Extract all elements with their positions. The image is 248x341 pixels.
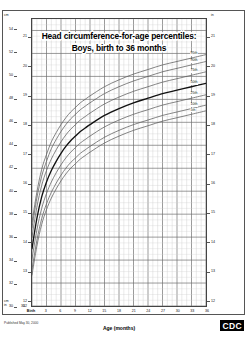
y-tick-mark-in-right — [207, 242, 210, 243]
percentile-label-90th: 90th — [190, 59, 198, 63]
y-tick-in-right-21: 21 — [211, 35, 221, 39]
y-axis-unit-in-bottom: in — [4, 304, 7, 308]
y-tick-mark-in-left — [28, 213, 31, 214]
y-tick-cm-52: 52 — [2, 51, 13, 55]
y-tick-in-left-18: 18 — [18, 123, 27, 127]
y-tick-in-right-18: 18 — [211, 123, 221, 127]
y-tick-in-left-12: 12 — [18, 300, 27, 304]
y-tick-cm-42: 42 — [2, 166, 13, 170]
y-tick-cm-34: 34 — [2, 259, 13, 263]
y-tick-cm-54: 54 — [2, 28, 13, 32]
y-tick-in-left-14: 14 — [18, 241, 27, 245]
y-tick-mark-in-right — [207, 125, 210, 126]
y-tick-mark-cm — [14, 214, 17, 215]
y-tick-mark-cm — [14, 76, 17, 77]
percentile-label-50th: 50th — [190, 81, 198, 85]
y-tick-mark-in-left — [28, 272, 31, 273]
percentile-label-75th: 75th — [190, 69, 198, 73]
y-tick-mark-in-left — [28, 37, 31, 38]
y-tick-mark-cm — [14, 261, 17, 262]
y-tick-in-bottom: 12 — [18, 305, 27, 309]
y-tick-cm-40: 40 — [2, 190, 13, 194]
growth-chart-page: Head circumference-for-age percentiles: … — [0, 0, 248, 341]
y-tick-mark-cm — [14, 52, 17, 53]
y-tick-mark-in-left — [28, 125, 31, 126]
y-tick-mark-in-right — [207, 184, 210, 185]
y-tick-in-right-19: 19 — [211, 94, 221, 98]
y-tick-mark-cm — [14, 191, 17, 192]
y-tick-cm-44: 44 — [2, 143, 13, 147]
y-tick-in-right-16: 16 — [211, 182, 221, 186]
y-tick-in-right-14: 14 — [211, 241, 221, 245]
cdc-logo: CDC — [220, 320, 244, 331]
y-tick-mark-in-right — [207, 66, 210, 67]
y-tick-in-right-13: 13 — [211, 270, 221, 274]
y-tick-in-right-20: 20 — [211, 65, 221, 69]
y-tick-in-left-15: 15 — [18, 211, 27, 215]
y-tick-mark-in-right — [207, 37, 210, 38]
y-tick-mark-cm — [14, 99, 17, 100]
y-tick-mark-in-right — [207, 213, 210, 214]
percentile-label-5th: 5th — [190, 108, 196, 112]
y-tick-in-right-15: 15 — [211, 211, 221, 215]
y-tick-mark-cm — [14, 237, 17, 238]
x-tick-36: 36 — [198, 310, 216, 314]
y-tick-mark-cm — [14, 122, 17, 123]
y-tick-cm-38: 38 — [2, 213, 13, 217]
y-tick-mark-cm — [14, 168, 17, 169]
y-tick-cm-50: 50 — [2, 74, 13, 78]
y-tick-in-right-17: 17 — [211, 153, 221, 157]
y-tick-in-left-19: 19 — [18, 94, 27, 98]
y-tick-mark-cm — [14, 29, 17, 30]
y-tick-mark-in-right — [207, 272, 210, 273]
y-tick-mark-in-left — [28, 301, 31, 302]
y-tick-mark-cm — [14, 284, 17, 285]
y-tick-in-left-13: 13 — [18, 270, 27, 274]
publication-note: Published May 30, 2000 — [4, 322, 38, 326]
y-tick-cm-32: 32 — [2, 282, 13, 286]
y-tick-in-left-16: 16 — [18, 182, 27, 186]
y-tick-mark-in-left — [28, 66, 31, 67]
y-tick-mark-cm — [14, 145, 17, 146]
y-tick-mark-in-left — [28, 184, 31, 185]
y-tick-mark-in-left — [28, 154, 31, 155]
y-tick-cm-46: 46 — [2, 120, 13, 124]
y-tick-in-left-17: 17 — [18, 153, 27, 157]
x-axis-title: Age (months) — [31, 325, 207, 331]
y-tick-mark-in-left — [28, 96, 31, 97]
percentile-label-25th: 25th — [190, 92, 198, 96]
percentile-label-10th: 10th — [190, 103, 198, 107]
plot-area — [31, 18, 207, 307]
y-tick-cm-36: 36 — [2, 236, 13, 240]
percentile-label-95th: 95th — [190, 52, 198, 56]
y-axis-unit-cm-top: cm — [4, 14, 9, 18]
y-tick-mark-in-right — [207, 96, 210, 97]
y-axis-unit-in-top: in — [211, 14, 214, 18]
y-tick-mark-in-right — [207, 301, 210, 302]
y-tick-in-left-20: 20 — [18, 65, 27, 69]
y-tick-mark-in-right — [207, 154, 210, 155]
y-tick-cm-48: 48 — [2, 97, 13, 101]
y-tick-in-left-21: 21 — [18, 35, 27, 39]
y-tick-in-right-12: 12 — [211, 300, 221, 304]
y-tick-mark-in-left — [28, 242, 31, 243]
percentile-curves-svg — [32, 19, 206, 306]
